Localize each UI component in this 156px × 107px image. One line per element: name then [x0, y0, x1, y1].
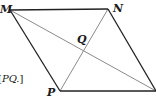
caption-text: [PQ.] [0, 74, 23, 84]
edge-n-r [108, 9, 156, 91]
vertex-label-n: N [113, 3, 123, 14]
diagram-canvas [0, 0, 156, 107]
caption-suffix: ] [20, 73, 24, 84]
parallelogram-figure: M N P Q [PQ.] [0, 0, 156, 107]
edge-m-n [10, 9, 108, 10]
intersection-label-q: Q [77, 34, 87, 45]
caption-body: PQ. [2, 73, 20, 84]
diagonal-m-r [10, 10, 156, 91]
diagonal-n-p [60, 9, 108, 91]
vertex-label-m: M [0, 4, 12, 15]
vertex-label-p: P [47, 87, 55, 98]
